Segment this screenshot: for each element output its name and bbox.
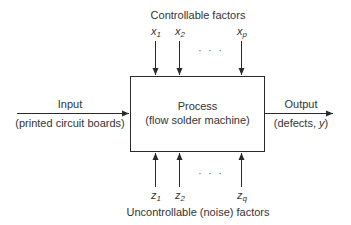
factor-z1: z1	[151, 189, 161, 203]
output-detail-suffix: )	[325, 117, 329, 129]
process-title: Process	[130, 99, 265, 113]
var-subscript: 2	[181, 30, 185, 39]
var-subscript: p	[243, 30, 247, 39]
top-ellipsis: · · ·	[198, 45, 224, 56]
process-text: Process (flow solder machine)	[130, 99, 265, 127]
controllable-factors-label: Controllable factors	[151, 9, 246, 22]
factor-x2: x2	[175, 25, 185, 39]
output-detail: (defects, y)	[274, 117, 328, 130]
noise-factors-label: Uncontrollable (noise) factors	[126, 206, 269, 219]
bottom-ellipsis: · · ·	[198, 168, 224, 179]
factor-x1: x1	[151, 25, 161, 39]
factor-xp: xp	[237, 25, 247, 39]
input-label: Input	[58, 98, 82, 111]
var-subscript: 1	[157, 30, 161, 39]
factor-zq: zq	[237, 189, 247, 203]
var-subscript: 1	[157, 194, 161, 203]
var-subscript: q	[243, 194, 247, 203]
input-detail: (printed circuit boards)	[15, 117, 124, 130]
var-subscript: 2	[181, 194, 185, 203]
output-detail-prefix: (defects,	[274, 117, 319, 129]
output-label: Output	[284, 98, 317, 111]
factor-z2: z2	[175, 189, 185, 203]
process-subtitle: (flow solder machine)	[130, 113, 265, 127]
